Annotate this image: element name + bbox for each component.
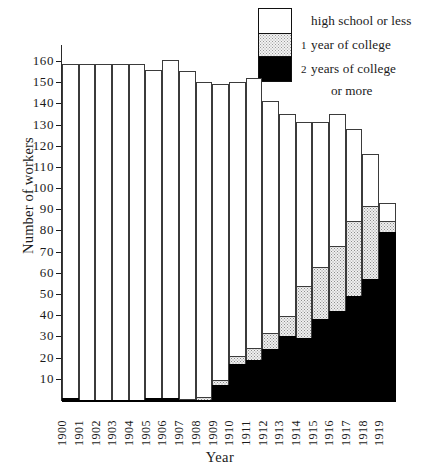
x-axis-line [62,400,396,402]
bar-chart: high school or less 1year of college 2ye… [0,0,423,474]
y-tick-label: 50 [40,286,54,302]
bar-1917[interactable] [346,45,363,401]
bar-1904[interactable] [129,45,146,401]
segment-high-school [95,64,112,401]
segment-two-years-college [296,338,313,402]
bar-1914[interactable] [296,45,313,401]
segment-high-school [279,114,296,317]
segment-one-year-college [362,206,379,280]
legend-swatch-high-school [259,9,291,34]
segment-one-year-college [329,246,346,312]
bar-1911[interactable] [246,45,263,401]
x-axis-title: Year [175,449,265,466]
bar-1906[interactable] [162,45,179,401]
y-tick-label: 160 [33,53,54,69]
bar-1905[interactable] [145,45,162,401]
bar-1915[interactable] [312,45,329,401]
segment-high-school [296,122,313,287]
segment-high-school [229,82,246,357]
segment-two-years-college [246,360,263,402]
segment-high-school [79,64,96,401]
segment-high-school [362,154,379,207]
bar-1910[interactable] [229,45,246,401]
bar-1918[interactable] [362,45,379,401]
y-tick-label: 120 [33,138,54,154]
y-tick-label: 140 [33,95,54,111]
y-tick-label: 150 [33,74,54,90]
x-tick-label: 1919 [372,420,402,446]
bar-1903[interactable] [112,45,129,401]
segment-high-school [162,60,179,399]
bar-1901[interactable] [79,45,96,401]
segment-high-school [379,203,396,222]
segment-two-years-college [362,279,379,402]
segment-high-school [62,64,79,399]
segment-high-school [112,64,129,401]
y-tick-label: 20 [40,350,54,366]
segment-high-school [212,84,229,381]
bar-1909[interactable] [212,45,229,401]
x-axis: 1900190119021903190419051906190719081909… [62,404,396,448]
bar-1907[interactable] [179,45,196,401]
bar-1919[interactable] [379,45,396,401]
legend-text-high-school: high school or less [311,13,411,28]
segment-high-school [179,71,196,399]
y-tick-label: 130 [33,117,54,133]
bar-1912[interactable] [262,45,279,401]
segment-one-year-college [312,267,329,320]
segment-two-years-college [279,336,296,402]
plot-area [62,45,396,401]
segment-one-year-college [279,316,296,337]
segment-one-year-college [346,221,363,297]
bar-1908[interactable] [196,45,213,401]
segment-high-school [312,122,329,268]
y-tick-label: 80 [40,222,54,238]
y-tick-label: 110 [33,159,54,175]
y-tick-label: 100 [33,180,54,196]
segment-two-years-college [312,319,329,402]
y-tick-label: 30 [40,328,54,344]
segment-two-years-college [329,311,346,402]
segment-high-school [346,129,363,222]
segment-two-years-college [262,349,279,402]
segment-one-year-college [262,333,279,350]
bar-1902[interactable] [95,45,112,401]
y-tick-label: 40 [40,307,54,323]
y-axis: 102030405060708090100110120130140150160 [0,0,62,401]
y-tick-label: 90 [40,201,54,217]
bar-1913[interactable] [279,45,296,401]
y-tick-label: 60 [40,265,54,281]
y-tick-label: 70 [40,244,54,260]
segment-high-school [329,114,346,248]
bar-1916[interactable] [329,45,346,401]
segment-high-school [262,101,279,334]
segment-two-years-college [379,232,396,402]
segment-high-school [145,70,162,398]
segment-high-school [246,78,263,349]
x-axis-tick-1919: 1919 [379,404,396,448]
y-tick-label: 10 [40,371,54,387]
legend-item-high-school: high school or less [301,9,423,33]
segment-two-years-college [229,364,246,402]
segment-two-years-college [346,296,363,402]
segment-high-school [196,82,213,398]
segment-one-year-college [296,286,313,339]
bar-series-container [62,45,396,401]
bar-1900[interactable] [62,45,79,401]
segment-high-school [129,64,146,401]
